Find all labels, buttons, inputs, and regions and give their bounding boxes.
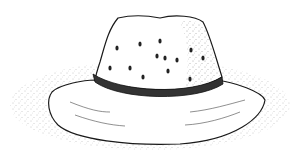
hat-illustration <box>0 0 304 163</box>
hat-drawing <box>0 0 304 163</box>
